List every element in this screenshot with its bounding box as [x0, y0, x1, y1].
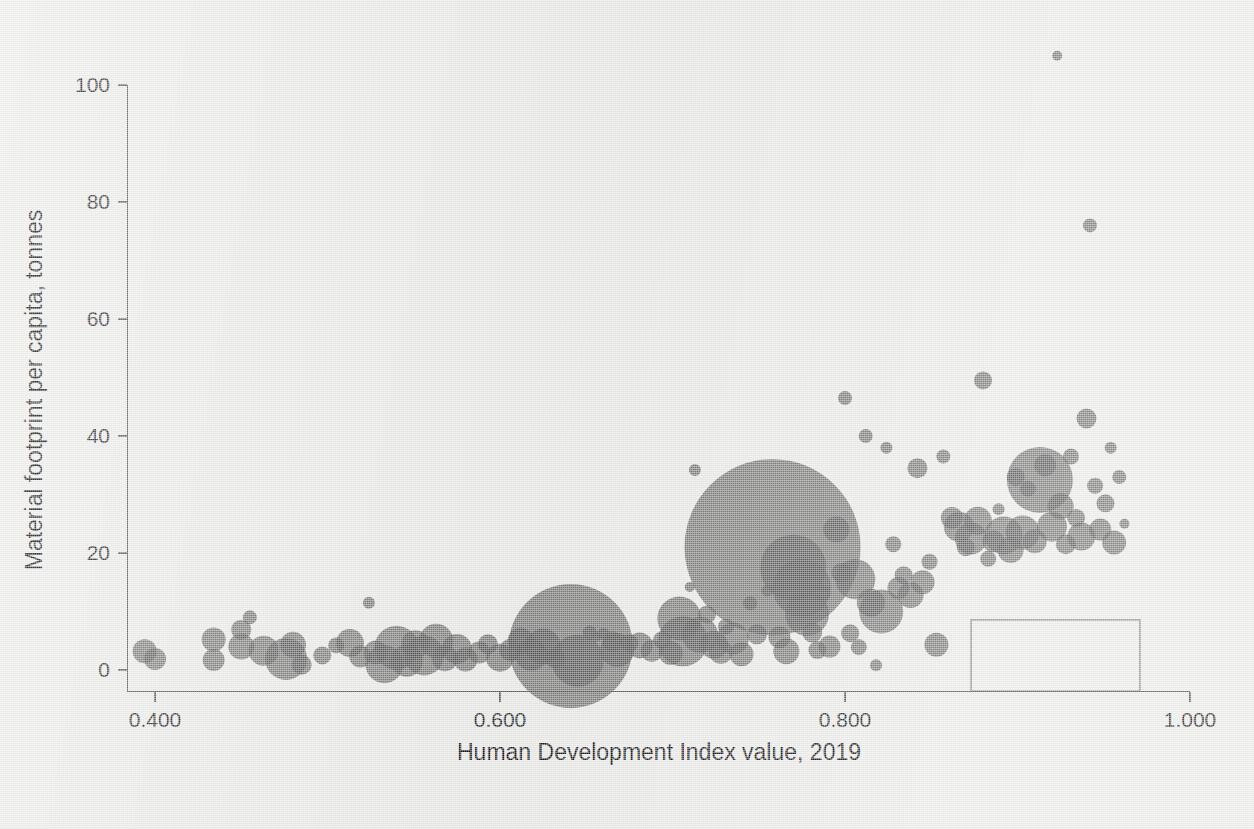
- bubble-point: [689, 464, 701, 476]
- bubble-point: [552, 635, 604, 687]
- bubble-point: [292, 655, 312, 675]
- bubble-point: [911, 570, 935, 594]
- bubble-point: [1034, 454, 1056, 476]
- x-tick-label: 0.400: [129, 708, 182, 731]
- bubble-point: [880, 442, 892, 454]
- y-tick-label: 40: [87, 424, 110, 447]
- bubble-point: [870, 659, 882, 671]
- y-axis-ticks: 020406080100: [75, 73, 127, 681]
- bubble-point: [895, 566, 913, 584]
- bubble-point: [1119, 519, 1129, 529]
- bubble-point: [993, 503, 1005, 515]
- bubble-point: [1102, 530, 1126, 554]
- x-tick-label: 0.600: [474, 708, 527, 731]
- bubble-point: [1087, 478, 1103, 494]
- bubble-point: [851, 639, 867, 655]
- bubble-point: [859, 429, 873, 443]
- y-tick-label: 80: [87, 190, 110, 213]
- y-tick-label: 20: [87, 541, 110, 564]
- bubble-point: [144, 648, 166, 670]
- bubble-point: [1112, 470, 1126, 484]
- x-tick-label: 0.800: [819, 708, 872, 731]
- bubble-point: [203, 649, 225, 671]
- bubble-point: [841, 624, 859, 642]
- bubble-chart: 020406080100 0.4000.6000.8001.000 Human …: [0, 0, 1254, 829]
- axes: [127, 85, 1190, 692]
- y-tick-label: 60: [87, 307, 110, 330]
- bubble-point: [922, 554, 938, 570]
- bubble-point: [363, 597, 375, 609]
- y-axis-title: Material footprint per capita, tonnes: [21, 210, 47, 571]
- bubble-point: [313, 646, 331, 664]
- annotation-layer: [971, 620, 1140, 691]
- bubble-point: [815, 585, 831, 601]
- bubble-point: [773, 638, 799, 664]
- chart-page: 020406080100 0.4000.6000.8001.000 Human …: [0, 0, 1254, 829]
- bubble-point: [1052, 51, 1062, 61]
- bubble-point: [1063, 448, 1079, 464]
- bubble-point: [1083, 218, 1097, 232]
- bubble-series: [133, 51, 1130, 708]
- bubble-point: [802, 623, 822, 643]
- y-tick-label: 100: [75, 73, 110, 96]
- bubble-point: [818, 636, 840, 658]
- legend-box: [971, 620, 1140, 691]
- bubble-point: [202, 628, 226, 652]
- bubble-point: [924, 633, 948, 657]
- bubble-point: [1105, 442, 1117, 454]
- bubble-point: [838, 391, 852, 405]
- x-axis-ticks: 0.4000.6000.8001.000: [129, 692, 1217, 731]
- bubble-point: [823, 517, 849, 543]
- bubble-point: [730, 642, 754, 666]
- bubble-point: [885, 536, 901, 552]
- x-axis-title: Human Development Index value, 2019: [457, 739, 861, 765]
- bubble-point: [1096, 494, 1114, 512]
- x-tick-label: 1.000: [1164, 708, 1217, 731]
- bubble-point: [280, 632, 306, 658]
- bubble-point: [936, 449, 950, 463]
- bubble-point: [1077, 408, 1097, 428]
- y-tick-label: 0: [98, 658, 110, 681]
- bubble-point: [243, 610, 257, 624]
- bubble-point: [980, 551, 996, 567]
- bubble-point: [907, 458, 927, 478]
- bubble-point: [974, 371, 992, 389]
